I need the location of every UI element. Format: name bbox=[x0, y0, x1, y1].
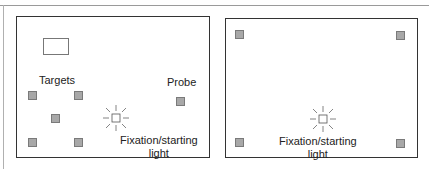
fixation-label-line2: light bbox=[120, 147, 198, 160]
probe-square bbox=[176, 97, 185, 106]
fixation-label-line1: Fixation/starting bbox=[120, 134, 198, 147]
fixation-label: Fixation/starting light bbox=[120, 134, 198, 160]
outer-frame-left-line bbox=[3, 5, 4, 169]
target-square bbox=[28, 138, 37, 147]
left-panel: Targets Probe Fixation/starting light bbox=[16, 16, 210, 158]
fixation-label-line1: Fixation/starting bbox=[279, 135, 357, 148]
target-square bbox=[235, 138, 244, 147]
target-square bbox=[396, 31, 405, 40]
target-square bbox=[28, 91, 37, 100]
targets-label: Targets bbox=[39, 74, 75, 87]
right-panel: Fixation/starting light bbox=[225, 18, 418, 158]
target-square bbox=[74, 138, 83, 147]
target-square bbox=[74, 91, 83, 100]
fixation-light-icon bbox=[308, 104, 338, 134]
fixation-light-icon bbox=[101, 103, 131, 133]
fixation-label: Fixation/starting light bbox=[279, 135, 357, 161]
outer-frame-top-line bbox=[0, 5, 429, 6]
probe-label: Probe bbox=[167, 76, 196, 89]
target-square bbox=[235, 30, 244, 39]
target-square bbox=[396, 139, 405, 148]
target-square bbox=[51, 114, 60, 123]
fixation-label-line2: light bbox=[279, 148, 357, 161]
empty-rectangle bbox=[43, 38, 69, 55]
